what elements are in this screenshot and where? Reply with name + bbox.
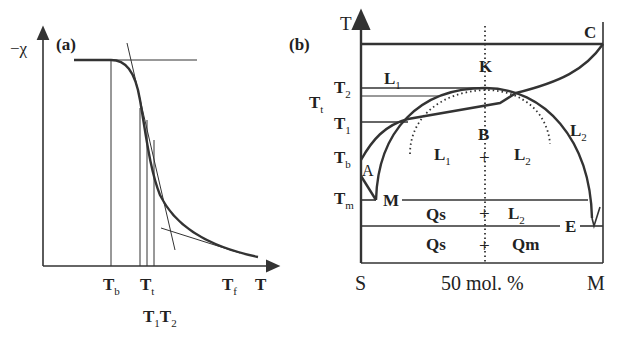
label-T1: T1	[334, 114, 351, 136]
x-axis-label-T: T	[255, 275, 267, 294]
panel-b-label: (b)	[289, 35, 310, 54]
point-A: A	[362, 162, 374, 179]
region-L1-top: L1	[384, 69, 401, 91]
tick-Tb: Tb	[103, 275, 120, 297]
point-B: B	[478, 125, 489, 144]
region-L2-right: L2	[570, 121, 587, 143]
region-Qs-mid: Qs	[426, 205, 446, 224]
panel-b: (b) T T2 Tt T1 Tb Tm C K B A M E L1 L2 L…	[289, 13, 605, 294]
figure-canvas: (a) −χ Tb Tt Tf T T1T2 (	[0, 0, 619, 352]
y-axis-label-chi: −χ	[10, 39, 28, 58]
tangent-steep	[127, 43, 175, 250]
region-Qm-bot: Qm	[512, 235, 539, 254]
point-E: E	[565, 217, 576, 236]
eutectic-v	[592, 207, 600, 226]
region-Qs-bot: Qs	[426, 235, 446, 254]
panel-a-label: (a)	[56, 35, 76, 54]
point-C: C	[584, 23, 596, 42]
region-L2-mid: L2	[508, 204, 525, 226]
region-L1-dome: L1	[434, 145, 451, 167]
label-Tm: Tm	[334, 189, 354, 211]
tick-Tt: Tt	[140, 275, 154, 297]
x-label-S: S	[355, 272, 366, 294]
region-plus-dome: +	[479, 147, 490, 168]
x-label-50mol: 50 mol. %	[441, 272, 524, 294]
region-plus-bot: +	[479, 235, 490, 256]
label-Tt: Tt	[309, 93, 323, 115]
region-L2-dome: L2	[514, 145, 531, 167]
x-label-M: M	[587, 272, 605, 294]
point-M: M	[383, 191, 399, 210]
label-T1T2: T1T2	[143, 307, 177, 329]
tick-Tf: Tf	[222, 275, 237, 297]
panel-a: (a) −χ Tb Tt Tf T T1T2	[10, 32, 274, 329]
region-plus-mid: +	[479, 203, 490, 224]
point-K: K	[479, 57, 493, 76]
line-A-M	[361, 176, 376, 200]
susceptibility-curve	[111, 60, 258, 257]
label-T2: T2	[334, 78, 351, 100]
t-axis-label: T	[340, 13, 352, 34]
label-Tb: Tb	[334, 148, 351, 170]
